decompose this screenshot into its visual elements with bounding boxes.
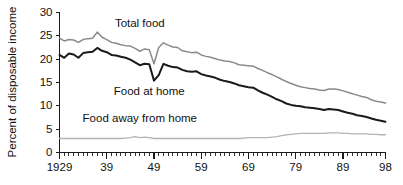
x-tick-label-79: 79	[289, 161, 302, 173]
y-tick-label-0: 0	[46, 146, 52, 158]
x-axis-ticks	[60, 153, 386, 159]
series-annotations: Total foodFood at homeFood away from hom…	[83, 17, 197, 124]
x-tick-label-1929: 1929	[47, 161, 73, 173]
x-axis-tick-labels: 192939495969798998	[47, 161, 392, 173]
x-tick-label-39: 39	[100, 161, 113, 173]
y-axis-title-group: Percent of disposable income	[6, 7, 18, 158]
y-tick-label-15: 15	[40, 76, 53, 88]
series-food-at-home	[60, 48, 386, 122]
food-expenditure-line-chart: Percent of disposable income 05101520253…	[0, 0, 403, 185]
y-axis-tick-labels: 051015202530	[40, 6, 53, 158]
y-axis-title: Percent of disposable income	[6, 7, 18, 158]
series-food-away-from-home	[60, 133, 386, 139]
x-tick-label-98: 98	[379, 161, 392, 173]
annotation-food-away-from-home: Food away from home	[83, 112, 197, 124]
x-tick-label-69: 69	[242, 161, 255, 173]
series-total-food	[60, 32, 386, 103]
y-tick-label-25: 25	[40, 29, 53, 41]
annotation-total-food: Total food	[115, 17, 165, 29]
annotation-food-at-home: Food at home	[114, 85, 185, 97]
chart-container: Percent of disposable income 05101520253…	[0, 0, 403, 185]
x-tick-label-49: 49	[148, 161, 161, 173]
y-tick-label-30: 30	[40, 6, 53, 18]
axis-frame	[60, 13, 386, 153]
y-tick-label-20: 20	[40, 53, 53, 65]
y-tick-label-10: 10	[40, 99, 53, 111]
x-tick-label-59: 59	[195, 161, 208, 173]
x-tick-label-89: 89	[337, 161, 350, 173]
y-tick-label-5: 5	[46, 123, 52, 135]
